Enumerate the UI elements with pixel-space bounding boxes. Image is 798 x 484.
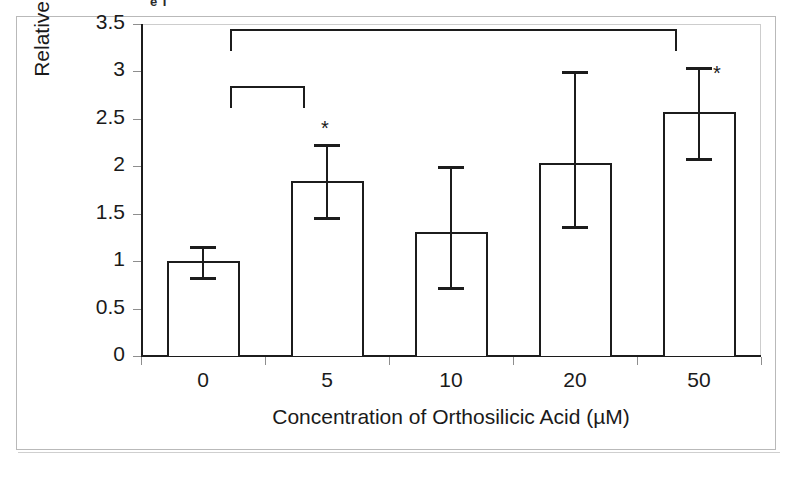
y-axis-tick-label: 3.5 <box>96 11 125 32</box>
y-axis-title: Relative Increase in collagen type I mRN… <box>28 0 84 80</box>
y-axis-tick-mark <box>133 119 141 120</box>
x-axis-tick-mark <box>761 357 762 365</box>
y-axis-line <box>141 24 143 357</box>
y-axis-title-line1: Relative Increase in collagen type I <box>28 0 55 80</box>
y-axis-tick-mark <box>133 261 141 262</box>
error-bar-cap-lower <box>190 277 216 280</box>
error-bar-cap-lower <box>314 217 340 220</box>
x-axis-tick-label: 20 <box>563 368 586 392</box>
y-axis-tick-mark <box>133 309 141 310</box>
x-axis-tick-label: 50 <box>687 368 710 392</box>
bracket-0-vs-5 <box>230 86 305 108</box>
error-bar-stem <box>326 144 328 216</box>
error-bar-cap-upper <box>562 71 588 74</box>
x-axis-title: Concentration of Orthosilicic Acid (µM) <box>141 404 761 429</box>
bar-chart: 00.511.522.533.5 05102050 ** Concentrati… <box>0 0 798 484</box>
y-axis-title-line2: mRNA <box>55 0 82 80</box>
significance-star: * <box>321 118 329 138</box>
x-axis-tick-mark <box>141 357 142 365</box>
x-axis-tick-mark <box>637 357 638 365</box>
x-axis-tick-mark <box>513 357 514 365</box>
error-bar-cap-upper <box>438 166 464 169</box>
y-axis-tick-label: 0.5 <box>96 296 125 317</box>
error-bar-cap-upper <box>686 67 712 70</box>
x-axis-tick-label: 0 <box>197 368 209 392</box>
error-bar-stem <box>202 246 204 277</box>
error-bar-stem <box>450 166 452 286</box>
y-axis-tick-label: 0 <box>113 343 125 364</box>
y-axis-tick-mark <box>133 214 141 215</box>
figure-root: e I 00.511.522.533.5 05102050 ** Concent… <box>0 0 798 484</box>
y-axis-tick-mark <box>133 24 141 25</box>
y-axis-tick-mark <box>133 166 141 167</box>
x-axis-tick-mark <box>389 357 390 365</box>
y-axis-tick-label: 1.5 <box>96 201 125 222</box>
x-axis-tick-label: 10 <box>439 368 462 392</box>
y-axis-tick-mark <box>133 71 141 72</box>
error-bar-stem <box>698 67 700 158</box>
y-axis-tick-label: 2 <box>113 153 125 174</box>
significance-star: * <box>713 63 721 83</box>
error-bar-cap-lower <box>438 287 464 290</box>
bracket-0-vs-50 <box>230 29 677 51</box>
error-bar-cap-lower <box>686 158 712 161</box>
error-bar-cap-lower <box>562 226 588 229</box>
y-axis-tick-label: 2.5 <box>96 106 125 127</box>
x-axis-tick-mark <box>265 357 266 365</box>
error-bar-stem <box>574 71 576 226</box>
y-axis-tick-label: 1 <box>113 248 125 269</box>
error-bar-cap-upper <box>314 144 340 147</box>
y-axis-tick-mark <box>133 356 141 357</box>
error-bar-cap-upper <box>190 246 216 249</box>
y-axis-tick-label: 3 <box>113 58 125 79</box>
x-axis-tick-label: 5 <box>321 368 333 392</box>
